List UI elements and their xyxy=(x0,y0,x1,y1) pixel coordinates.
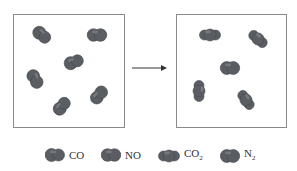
co2-molecule-icon xyxy=(200,29,221,41)
no-molecule-icon xyxy=(87,29,107,42)
legend: CO NO CO2 N2 xyxy=(0,147,297,165)
co2-molecule-icon xyxy=(158,148,180,164)
no-molecule-icon xyxy=(101,147,121,163)
co2-molecule-icon xyxy=(235,88,257,112)
co2-molecule-icon xyxy=(193,81,205,102)
co-molecule-icon xyxy=(45,149,65,162)
molecule-layer xyxy=(0,0,297,171)
legend-item-n2: N2 xyxy=(220,147,255,164)
n2-molecule-icon xyxy=(220,62,239,75)
co-molecule-icon xyxy=(51,95,73,118)
co-molecule-icon xyxy=(30,24,53,46)
n2-molecule-icon xyxy=(220,149,239,162)
legend-item-co2: CO2 xyxy=(158,147,203,164)
legend-label-no: NO xyxy=(125,149,141,161)
legend-item-no: NO xyxy=(101,147,141,163)
legend-label-n2: N2 xyxy=(244,147,255,164)
legend-item-co: CO xyxy=(45,147,84,163)
no-molecule-icon xyxy=(88,83,110,106)
co2-molecule-icon xyxy=(159,150,180,162)
legend-label-co2: CO2 xyxy=(184,147,203,164)
co-molecule-icon xyxy=(45,147,65,163)
no-molecule-icon xyxy=(25,67,46,90)
legend-label-co: CO xyxy=(69,149,84,161)
no-molecule-icon xyxy=(101,149,121,162)
co2-molecule-icon xyxy=(246,28,270,51)
n2-molecule-icon xyxy=(220,148,240,164)
co-molecule-icon xyxy=(62,53,85,72)
